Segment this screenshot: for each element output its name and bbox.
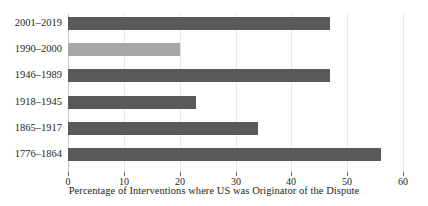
gridline-60 (403, 14, 404, 172)
y-axis-tick-label: 1918–1945 (0, 96, 62, 107)
x-axis-title: Percentage of Interventions where US was… (0, 185, 428, 196)
y-axis-tick-label: 2001–2019 (0, 17, 62, 28)
bar (68, 122, 258, 135)
plot-area (68, 14, 403, 172)
bar (68, 43, 180, 56)
bar (68, 96, 196, 109)
bar (68, 69, 330, 82)
horizontal-bar-chart: 2001–2019 1990–2000 1946–1989 1918–1945 … (0, 0, 428, 206)
bar (68, 148, 381, 161)
y-axis-tick-label: 1946–1989 (0, 69, 62, 80)
bar (68, 17, 330, 30)
y-axis-tick-label: 1776–1864 (0, 148, 62, 159)
y-axis-tick-label: 1865–1917 (0, 122, 62, 133)
y-axis-tick-label: 1990–2000 (0, 43, 62, 54)
